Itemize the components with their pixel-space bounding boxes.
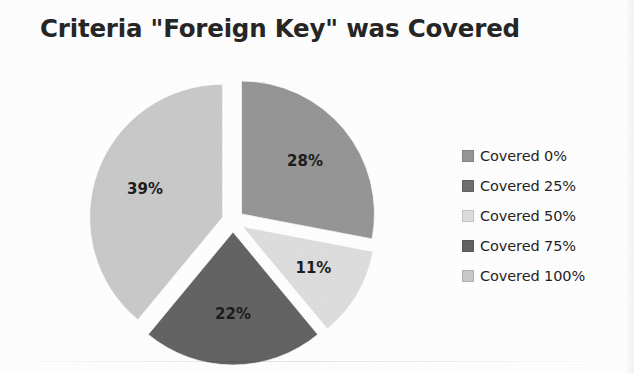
- legend-item[interactable]: Covered 0%: [462, 141, 622, 171]
- legend-swatch-icon: [462, 240, 474, 252]
- page-edge-shadow: [625, 0, 634, 373]
- pie-slice-label: 28%: [287, 152, 323, 170]
- pie-slice-label: 11%: [295, 259, 331, 277]
- legend-item-label: Covered 100%: [480, 268, 585, 284]
- legend-item-label: Covered 0%: [480, 148, 567, 164]
- pie-chart-svg[interactable]: 28%11%22%39%: [56, 78, 416, 368]
- legend-item[interactable]: Covered 75%: [462, 231, 622, 261]
- chart-title: Criteria "Foreign Key" was Covered: [0, 14, 560, 43]
- pie-slice-label: 22%: [215, 305, 251, 323]
- legend-item-label: Covered 75%: [480, 238, 576, 254]
- pie-slice-label: 39%: [127, 180, 163, 198]
- legend-swatch-icon: [462, 150, 474, 162]
- legend-swatch-icon: [462, 180, 474, 192]
- legend-item-label: Covered 25%: [480, 178, 576, 194]
- legend-item[interactable]: Covered 100%: [462, 261, 622, 291]
- legend-item[interactable]: Covered 25%: [462, 171, 622, 201]
- legend-swatch-icon: [462, 270, 474, 282]
- pie-chart[interactable]: 28%11%22%39%: [56, 78, 416, 368]
- chart-legend: Covered 0%Covered 25%Covered 50%Covered …: [462, 141, 622, 291]
- legend-item[interactable]: Covered 50%: [462, 201, 622, 231]
- chart-page: Criteria "Foreign Key" was Covered 28%11…: [0, 0, 634, 373]
- legend-item-label: Covered 50%: [480, 208, 576, 224]
- scan-artifact-line: [0, 361, 634, 362]
- legend-swatch-icon: [462, 210, 474, 222]
